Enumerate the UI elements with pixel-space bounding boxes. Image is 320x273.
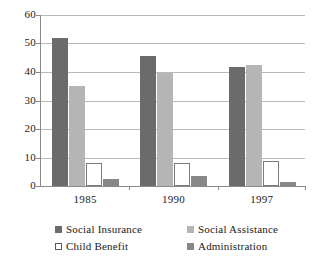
y-axis-tick-mark xyxy=(36,129,40,130)
bar-group xyxy=(41,15,129,186)
x-axis-tick-marks xyxy=(41,186,305,191)
x-axis-tick-label: 1990 xyxy=(129,193,217,206)
bar xyxy=(263,161,279,186)
bars-layer xyxy=(41,15,305,186)
x-axis-tick-mark xyxy=(305,186,306,190)
legend-item-label: Social Insurance xyxy=(66,223,142,235)
y-axis-tick-mark xyxy=(36,43,40,44)
y-axis-tick-label: 60 xyxy=(0,9,36,20)
y-axis-tick-mark xyxy=(36,158,40,159)
legend-swatch-icon xyxy=(55,243,62,250)
y-axis-tick-mark xyxy=(36,101,40,102)
legend-item-child-benefit: Child Benefit xyxy=(55,238,128,254)
legend-item-social-assistance: Social Assistance xyxy=(187,221,278,237)
bar xyxy=(191,176,207,186)
bar xyxy=(157,73,173,186)
y-axis-tick-mark xyxy=(36,186,40,187)
x-axis-tick-labels: 198519901997 xyxy=(41,193,305,209)
legend-swatch-icon xyxy=(187,243,194,250)
bar xyxy=(69,86,85,186)
legend-swatch-icon xyxy=(187,226,194,233)
bar xyxy=(246,65,262,186)
legend-item-label: Social Assistance xyxy=(198,223,278,235)
chart-legend: Social Insurance Social Assistance Child… xyxy=(55,221,295,257)
bar xyxy=(140,56,156,186)
bar xyxy=(103,179,119,186)
y-axis-tick-label: 20 xyxy=(0,123,36,134)
legend-row: Social Insurance Social Assistance xyxy=(55,221,295,237)
y-axis-tick-label: 50 xyxy=(0,37,36,48)
y-axis-tick-label: 0 xyxy=(0,180,36,191)
x-axis-tick-mark xyxy=(129,186,130,190)
x-axis-tick-label: 1985 xyxy=(41,193,129,206)
legend-item-social-insurance: Social Insurance xyxy=(55,221,142,237)
legend-swatch-icon xyxy=(55,226,62,233)
legend-item-label: Child Benefit xyxy=(66,240,128,252)
legend-item-label: Administration xyxy=(198,240,267,252)
y-axis-tick-label: 10 xyxy=(0,152,36,163)
y-axis-tick-label: 40 xyxy=(0,66,36,77)
legend-row: Child Benefit Administration xyxy=(55,238,295,254)
legend-item-administration: Administration xyxy=(187,238,267,254)
y-axis-tick-label: 30 xyxy=(0,95,36,106)
bar xyxy=(52,38,68,186)
y-axis-tick-mark xyxy=(36,72,40,73)
bar-chart: 6050403020100 198519901997 Social Insura… xyxy=(0,0,320,273)
y-axis-tick-labels: 6050403020100 xyxy=(0,15,36,186)
bar xyxy=(86,163,102,186)
y-axis-tick-mark xyxy=(36,15,40,16)
x-axis-tick-mark xyxy=(218,186,219,190)
bar-group xyxy=(218,15,306,186)
bar xyxy=(174,163,190,186)
x-axis-tick-label: 1997 xyxy=(218,193,306,206)
bar xyxy=(229,67,245,186)
bar-group xyxy=(129,15,217,186)
